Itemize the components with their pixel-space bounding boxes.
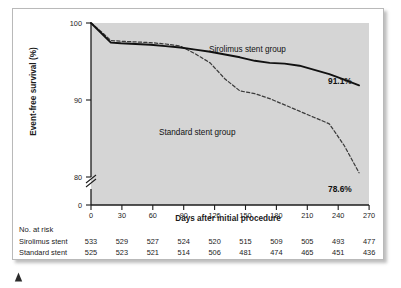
- risk-cell: 514: [172, 248, 196, 257]
- x-axis-ticks: [91, 205, 369, 210]
- endpoint-label-sirolimus: 91.1%: [328, 76, 352, 86]
- risk-cell: 515: [234, 237, 258, 246]
- kaplan-meier-chart: Event-free survival (%) 100 90 80 0 0 30…: [13, 9, 385, 261]
- figure-root: Event-free survival (%) 100 90 80 0 0 30…: [0, 0, 401, 288]
- risk-cell: 527: [141, 237, 165, 246]
- endpoint-label-standard: 78.6%: [328, 184, 352, 194]
- risk-cell: 506: [203, 248, 227, 257]
- annotation-sirolimus-stent-group: Sirolimus stent group: [209, 45, 286, 54]
- risk-row-label-standard: Standard stent: [19, 248, 67, 257]
- risk-cell: 520: [203, 237, 227, 246]
- risk-cell: 465: [295, 248, 319, 257]
- risk-cell: 521: [141, 248, 165, 257]
- risk-cell: 477: [357, 237, 381, 246]
- risk-cell: 509: [264, 237, 288, 246]
- risk-cell: 505: [295, 237, 319, 246]
- risk-cell: 533: [79, 237, 103, 246]
- caret-marker-icon: [14, 272, 23, 282]
- risk-cell: 525: [79, 248, 103, 257]
- y-tick-label-90: 90: [60, 96, 82, 105]
- risk-cell: 529: [110, 237, 134, 246]
- risk-cell: 451: [326, 248, 350, 257]
- risk-cell: 493: [326, 237, 350, 246]
- x-axis-title: Days after initial procedure: [93, 214, 363, 223]
- risk-row-label-sirolimus: Sirolimus stent: [19, 237, 67, 246]
- no-at-risk-title: No. at risk: [19, 225, 53, 234]
- risk-cell: 481: [234, 248, 258, 257]
- table-row: Standard stent 525 523 521 514 506 481 4…: [19, 248, 379, 259]
- y-axis-title: Event-free survival (%): [29, 27, 38, 157]
- y-tick-label-100: 100: [60, 19, 82, 28]
- risk-cell: 436: [357, 248, 381, 257]
- risk-cell: 523: [110, 248, 134, 257]
- risk-cell: 524: [172, 237, 196, 246]
- figure-panel: Event-free survival (%) 100 90 80 0 0 30…: [12, 8, 384, 260]
- y-tick-label-80: 80: [60, 173, 82, 182]
- y-tick-label-zero: 0: [60, 201, 82, 210]
- y-axis-ticks: [86, 23, 91, 205]
- annotation-standard-stent-group: Standard stent group: [159, 128, 235, 137]
- risk-cell: 474: [264, 248, 288, 257]
- table-row: Sirolimus stent 533 529 527 524 520 515 …: [19, 237, 379, 248]
